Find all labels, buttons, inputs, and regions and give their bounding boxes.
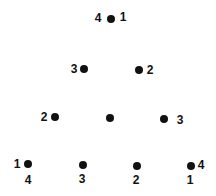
dot [107, 15, 115, 23]
dot-label: 3 [71, 63, 78, 75]
dot [79, 161, 87, 169]
dot-label: 4 [198, 159, 205, 171]
dot-label: 1 [187, 174, 194, 186]
dot-label: 1 [120, 11, 127, 23]
dot [187, 162, 195, 170]
dot-label: 2 [147, 64, 154, 76]
dot-label: 2 [41, 111, 48, 123]
dot-label: 4 [25, 174, 32, 186]
dot-label: 2 [133, 174, 140, 186]
dot-label: 1 [14, 158, 21, 170]
dot-label: 4 [95, 12, 102, 24]
dot [24, 160, 32, 168]
dot-label: 3 [79, 173, 86, 185]
dot [51, 113, 59, 121]
dot [135, 66, 143, 74]
dot [106, 114, 114, 122]
dot [160, 115, 168, 123]
dot-triangle-diagram: 4 1 3 2 2 3 1 4 4 3 2 1 [0, 0, 216, 196]
dot [133, 162, 141, 170]
dot [80, 65, 88, 73]
dot-label: 3 [177, 114, 184, 126]
